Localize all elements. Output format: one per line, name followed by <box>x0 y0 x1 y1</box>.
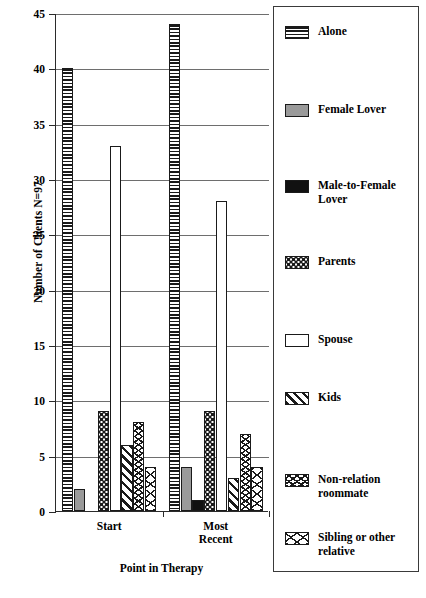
y-axis-tick-label: 5 <box>39 451 45 463</box>
legend-item-non-relation-roommate[interactable]: Non-relation roommate <box>285 473 412 500</box>
y-axis-tick-label: 45 <box>34 8 46 20</box>
y-axis-title: Number of Clients N=97 <box>32 142 44 342</box>
y-axis-tick <box>49 125 56 126</box>
y-axis-tick-label: 10 <box>34 395 46 407</box>
y-axis-tick <box>49 235 56 236</box>
legend-label: Female Lover <box>318 103 386 117</box>
legend-swatch-parents-icon <box>285 256 309 269</box>
y-axis-tick-label: 0 <box>39 506 45 518</box>
legend-label: Spouse <box>318 333 353 347</box>
legend-swatch-alone-icon <box>285 26 309 39</box>
x-axis-title: Point in Therapy <box>55 562 268 574</box>
legend-box: AloneFemale LoverMale-to-Female LoverPar… <box>273 6 419 572</box>
y-axis-tick-label: 30 <box>34 174 46 186</box>
legend-item-spouse[interactable]: Spouse <box>285 333 412 347</box>
bar-parents-most-recent <box>204 411 215 511</box>
legend-item-female-lover[interactable]: Female Lover <box>285 103 412 117</box>
legend-swatch-non-relation-roommate-icon <box>285 474 309 487</box>
bar-male-to-female-lover-most-recent <box>192 500 203 511</box>
bar-non-relation-roommate-most-recent <box>240 434 251 511</box>
legend-item-alone[interactable]: Alone <box>285 25 412 39</box>
legend-swatch-kids-icon <box>285 392 309 405</box>
y-axis-tick-label: 25 <box>34 229 46 241</box>
legend-swatch-female-lover-icon <box>285 104 309 117</box>
legend-item-kids[interactable]: Kids <box>285 391 412 405</box>
x-axis-tick-label: Most Recent <box>199 520 233 546</box>
bar-sibling-or-other-relative-start <box>145 467 156 511</box>
x-axis-tick-label: Start <box>97 520 122 533</box>
legend-label: Kids <box>318 391 341 405</box>
legend-swatch-male-to-female-lover-icon <box>285 180 309 193</box>
bar-female-lover-most-recent <box>181 467 192 511</box>
bar-spouse-most-recent <box>216 201 227 511</box>
legend-label: Parents <box>318 255 355 269</box>
y-axis-tick-label: 15 <box>34 340 46 352</box>
bar-female-lover-start <box>74 489 85 511</box>
bar-non-relation-roommate-start <box>133 422 144 511</box>
bar-alone-most-recent <box>169 24 180 511</box>
legend-swatch-sibling-or-other-relative-icon <box>285 532 309 545</box>
bar-kids-start <box>121 445 132 511</box>
legend-label: Alone <box>318 25 347 39</box>
y-axis-tick <box>49 346 56 347</box>
y-axis-tick <box>49 457 56 458</box>
bar-spouse-start <box>110 146 121 511</box>
y-axis-tick-label: 35 <box>34 119 46 131</box>
bar-alone-start <box>62 68 73 511</box>
bar-parents-start <box>98 411 109 511</box>
y-axis-tick-label: 40 <box>34 63 46 75</box>
y-axis-tick <box>49 180 56 181</box>
plot-area: StartMost Recent <box>55 14 268 512</box>
y-axis-tick <box>49 14 56 15</box>
y-axis-tick <box>49 401 56 402</box>
x-axis-tick <box>269 511 270 517</box>
x-axis-tick <box>163 511 164 517</box>
bar-sibling-or-other-relative-most-recent <box>251 467 262 511</box>
bar-kids-most-recent <box>228 478 239 511</box>
bars-group <box>56 14 268 511</box>
y-axis-tick <box>49 69 56 70</box>
y-axis-tick <box>49 291 56 292</box>
legend-item-male-to-female-lover[interactable]: Male-to-Female Lover <box>285 179 412 206</box>
plot-area-wrapper: StartMost Recent 051015202530354045 <box>55 14 268 512</box>
y-axis-tick <box>49 512 56 513</box>
legend-swatch-spouse-icon <box>285 334 309 347</box>
legend-label: Sibling or other relative <box>318 531 395 558</box>
legend-label: Male-to-Female Lover <box>318 179 396 206</box>
chart-figure: Number of Clients N=97 StartMost Recent … <box>0 0 426 598</box>
legend-item-sibling-or-other-relative[interactable]: Sibling or other relative <box>285 531 412 558</box>
legend-item-parents[interactable]: Parents <box>285 255 412 269</box>
y-axis-tick-label: 20 <box>34 285 46 297</box>
legend-label: Non-relation roommate <box>318 473 380 500</box>
